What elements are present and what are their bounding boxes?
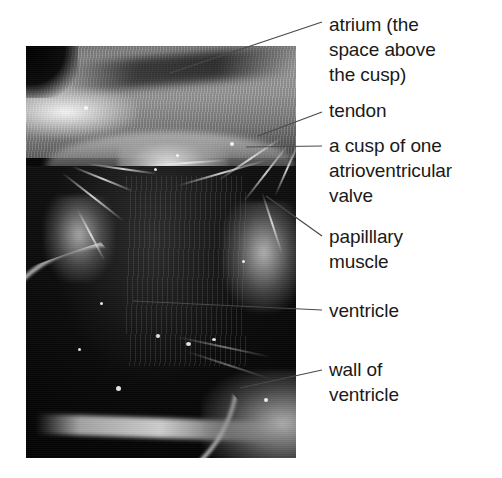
- photo-tendon-strand: [186, 350, 270, 379]
- photo-speck: [84, 106, 88, 110]
- photo-tendon-strand: [274, 142, 296, 196]
- photo-tendon-strand: [261, 192, 283, 253]
- photo-corner-shadow: [26, 46, 78, 98]
- photo-lower-right-tissue: [202, 370, 296, 458]
- photo-speck: [242, 260, 245, 263]
- photo-cusp-highlight: [118, 142, 228, 200]
- photo-speck: [186, 342, 191, 346]
- photo-tendon-strand: [77, 209, 106, 261]
- photo-region-ventricle-wall: [26, 242, 240, 458]
- photo-tendon-strand: [177, 336, 271, 358]
- photo-tendon-strand: [88, 163, 158, 175]
- photo-region-ventricle: [26, 166, 296, 458]
- label-papillary-muscle: papilllary muscle: [329, 224, 403, 274]
- heart-dissection-photograph: [26, 46, 296, 458]
- photo-speck: [176, 154, 179, 157]
- label-cusp: a cusp of one atrioventricular valve: [329, 133, 452, 208]
- photo-atrium-highlight: [26, 86, 138, 138]
- photo-speck: [116, 386, 121, 391]
- photo-speck: [212, 338, 216, 341]
- photo-tendon-strand: [62, 172, 125, 222]
- photo-speck: [156, 334, 160, 338]
- label-wall-of-ventricle: wall of ventricle: [329, 357, 399, 407]
- photo-tendon-strand: [72, 166, 134, 193]
- photo-speck: [100, 302, 103, 305]
- label-ventricle: ventricle: [329, 298, 399, 323]
- photo-speck: [264, 398, 268, 402]
- photo-speck: [230, 142, 234, 146]
- photo-tendon-strand: [243, 144, 289, 202]
- photo-region-cusp: [46, 132, 296, 188]
- photo-speck: [78, 348, 81, 351]
- labelled-anatomy-figure: atrium (the space above the cusp) tendon…: [0, 0, 502, 478]
- photo-region-atrium: [26, 46, 296, 158]
- photo-papillary-muscle-right: [222, 202, 296, 312]
- photo-speck: [154, 168, 157, 171]
- photo-tendon-strand: [178, 159, 267, 186]
- photo-tendon-strand: [218, 137, 282, 181]
- photo-papillary-muscle-left: [44, 196, 114, 282]
- photo-ventricle-striations: [126, 176, 246, 366]
- photo-scan-noise: [26, 46, 296, 458]
- label-atrium: atrium (the space above the cusp): [329, 12, 436, 87]
- label-tendon: tendon: [329, 98, 387, 123]
- photo-tendon-strand: [144, 159, 228, 167]
- photo-atrium-shadow: [65, 46, 296, 94]
- photo-ventricle-wall-base: [36, 414, 277, 442]
